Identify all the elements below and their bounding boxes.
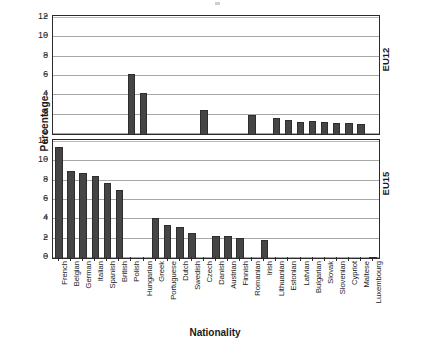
bar — [104, 183, 111, 258]
x-tick-label: Slovak — [327, 261, 334, 284]
x-tick-label: Latvian — [303, 261, 310, 286]
x-axis-labels: FrenchBelgianGermanItalianSpanishBritish… — [52, 261, 378, 325]
panel-eu12 — [52, 15, 380, 135]
x-tick-label: Spanish — [109, 261, 116, 288]
x-tick-label: Danish — [218, 261, 225, 285]
bar — [285, 120, 292, 135]
y-tick-mark — [44, 93, 48, 94]
x-tick-label: Austrian — [230, 261, 237, 289]
x-tick-label: German — [85, 261, 92, 288]
bar-group-eu12 — [53, 16, 379, 134]
panel-eu15 — [52, 139, 380, 259]
x-tick-label: Italian — [97, 261, 104, 281]
y-tick-mark — [44, 217, 48, 218]
bar — [297, 122, 304, 134]
y-tick-mark — [44, 74, 48, 75]
x-tick-label: Lithuanian — [278, 261, 285, 296]
bar — [79, 173, 86, 258]
bar — [357, 124, 364, 134]
y-axis-bottom: 024681012 — [18, 139, 48, 257]
bar — [236, 238, 243, 258]
x-tick-label: Bulgarian — [315, 261, 322, 293]
y-tick-mark — [44, 54, 48, 55]
bar — [152, 218, 159, 258]
y-tick-mark — [44, 236, 48, 237]
x-tick-label: Belgian — [73, 261, 80, 286]
bar — [67, 171, 74, 258]
x-tick-label: Luxembourg — [375, 261, 382, 303]
bar — [333, 123, 340, 134]
panel-tag-eu15: EU15 — [380, 154, 391, 214]
bar — [164, 225, 171, 258]
x-tick-label: Slovenian — [339, 261, 346, 294]
bar — [321, 122, 328, 134]
y-tick-mark — [44, 112, 48, 113]
bar — [140, 93, 147, 134]
bar — [200, 110, 207, 134]
x-tick-label: British — [121, 261, 128, 282]
x-tick-label: Hungarian — [146, 261, 153, 296]
y-axis-top: 024681012 — [18, 15, 48, 133]
x-tick-label: French — [61, 261, 68, 285]
bar — [176, 227, 183, 258]
bar — [92, 176, 99, 258]
y-tick-mark — [44, 159, 48, 160]
bar — [188, 233, 195, 258]
panel-tag-eu12: EU12 — [380, 30, 391, 90]
x-tick-label: Maltese — [363, 261, 370, 288]
bar — [55, 147, 62, 258]
x-tick-label: Czech — [206, 261, 213, 283]
bar — [273, 118, 280, 134]
bar — [128, 74, 135, 134]
x-tick-label: Irish — [266, 261, 273, 275]
x-tick-label: Cypriot — [351, 261, 358, 285]
y-tick-mark — [44, 198, 48, 199]
x-tick-label: Estonian — [290, 261, 297, 291]
x-tick-label: Dutch — [182, 261, 189, 281]
y-tick-mark — [44, 140, 48, 141]
bar — [345, 123, 352, 134]
bar — [224, 236, 231, 258]
bar — [261, 240, 268, 258]
bar — [212, 236, 219, 258]
y-tick-mark — [44, 178, 48, 179]
x-tick-label: Portuguese — [170, 261, 177, 300]
y-tick-mark — [44, 256, 48, 257]
x-tick-label: Polish — [133, 261, 140, 282]
y-tick-mark — [44, 16, 48, 17]
y-tick-mark — [44, 35, 48, 36]
bar — [116, 190, 123, 258]
x-tick-label: Romanian — [254, 261, 261, 296]
chart-root: Percentage 024681012 024681012 EU12 EU15… — [0, 0, 433, 347]
bar — [309, 121, 316, 134]
title-artifact — [215, 2, 220, 5]
x-tick-label: Finnish — [242, 261, 249, 285]
y-tick-mark — [44, 132, 48, 133]
plot-area-eu15 — [53, 140, 379, 258]
bar-group-eu15 — [53, 140, 379, 258]
x-axis-title: Nationality — [52, 327, 378, 338]
plot-area-eu12 — [53, 16, 379, 134]
x-tick-label: Greek — [158, 261, 165, 282]
bar — [248, 115, 255, 134]
x-tick-label: Swedish — [194, 261, 201, 290]
